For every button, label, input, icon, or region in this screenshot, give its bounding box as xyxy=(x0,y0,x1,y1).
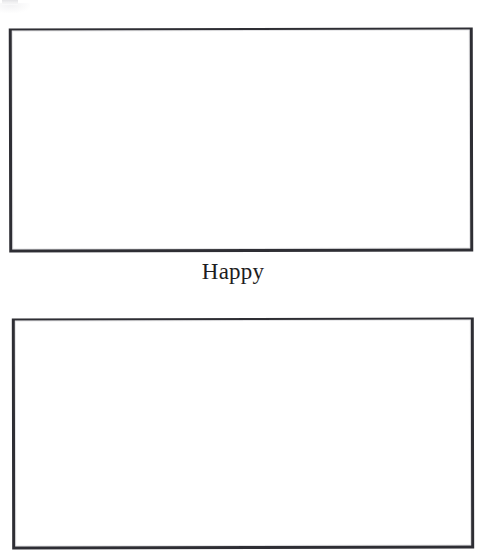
figure-2-content xyxy=(15,320,471,321)
scan-smudge-halo xyxy=(0,3,30,13)
figure-frame-2 xyxy=(12,318,474,550)
figure-1-content xyxy=(12,29,470,30)
document-page: Happy xyxy=(0,0,483,556)
figure-1-caption: Happy xyxy=(0,259,466,285)
figure-frame-1 xyxy=(9,27,474,252)
scan-smudge-icon xyxy=(2,0,18,5)
